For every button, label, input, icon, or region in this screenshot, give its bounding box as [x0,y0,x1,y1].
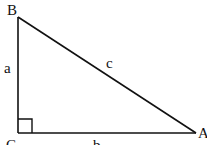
side-label-b: b [93,137,101,145]
right-angle-marker [18,119,32,133]
vertex-label-a: A [198,125,207,141]
side-label-c: c [106,55,113,71]
right-triangle-diagram: B C A a b c [0,0,207,145]
vertex-label-b: B [7,2,17,18]
side-label-a: a [4,60,11,76]
side-c-hypotenuse-line [18,17,196,133]
triangle-sides [18,17,196,133]
vertex-label-c: C [6,137,16,145]
